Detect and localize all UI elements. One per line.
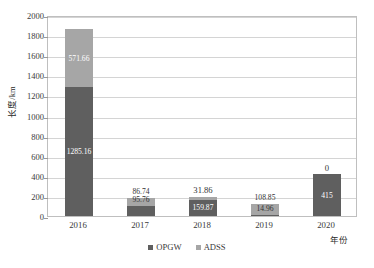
bar-value-label: 1285.16 <box>65 147 93 156</box>
legend-swatch-icon <box>148 245 153 250</box>
bar-value-label-outside: 0 <box>303 164 351 173</box>
y-tick-label: 800 <box>13 133 44 141</box>
bar-group: 108.8514.96 <box>251 17 279 216</box>
chart-legend: OPGWADSS <box>0 243 374 252</box>
bar-group: 0415 <box>313 17 341 216</box>
legend-swatch-icon <box>196 245 201 250</box>
bar-stack: 86.7495.76 <box>127 198 155 216</box>
bar-value-label: 159.87 <box>189 203 217 212</box>
y-axis-tick-labels: 0200400600800100012001400160018002000 <box>13 16 44 217</box>
bars-layer: 571.661285.1686.7495.7631.86159.87108.85… <box>48 17 356 216</box>
bar-segment-adss: 571.66 <box>65 29 93 86</box>
bar-value-label: 95.76 <box>127 195 155 204</box>
y-tickmark <box>44 218 48 219</box>
legend-item[interactable]: ADSS <box>196 243 226 252</box>
bar-segment-opgw: 1285.16 <box>65 87 93 216</box>
x-tick-label: 2018 <box>171 220 233 230</box>
plot-area: 571.661285.1686.7495.7631.86159.87108.85… <box>47 16 357 217</box>
legend-item[interactable]: OPGW <box>148 243 181 252</box>
bar-stack: 415 <box>313 174 341 216</box>
bar-stack: 159.87 <box>189 197 217 216</box>
bar-segment-opgw: 415 <box>313 174 341 216</box>
bar-value-label: 86.74 <box>127 187 155 196</box>
y-tick-label: 1600 <box>13 52 44 60</box>
y-tick-label: 1000 <box>13 113 44 121</box>
bar-value-label: 415 <box>313 191 341 200</box>
y-tick-label: 2000 <box>13 12 44 20</box>
bar-segment-opgw: 159.87 <box>189 200 217 216</box>
bar-stack: 571.661285.16 <box>65 29 93 216</box>
bar-value-label: 108.85 <box>251 193 279 202</box>
y-tick-label: 600 <box>13 153 44 161</box>
y-tick-label: 400 <box>13 173 44 181</box>
stacked-bar-chart: 长度/km 0200400600800100012001400160018002… <box>0 0 374 268</box>
y-tick-label: 1200 <box>13 92 44 100</box>
bar-group: 571.661285.16 <box>65 17 93 216</box>
y-tick-label: 1400 <box>13 72 44 80</box>
y-tick-label: 200 <box>13 193 44 201</box>
x-tick-label: 2019 <box>233 220 295 230</box>
x-tick-label: 2020 <box>295 220 357 230</box>
legend-label: OPGW <box>156 243 181 252</box>
bar-value-label: 14.96 <box>251 204 279 213</box>
bar-value-label: 571.66 <box>65 54 93 63</box>
legend-label: ADSS <box>204 243 226 252</box>
bar-stack: 108.8514.96 <box>251 204 279 216</box>
y-tick-label: 0 <box>13 213 44 221</box>
x-axis-tick-labels: 20162017201820192020 <box>47 220 357 234</box>
x-tick-label: 2017 <box>109 220 171 230</box>
y-tick-label: 1800 <box>13 32 44 40</box>
bar-group: 86.7495.76 <box>127 17 155 216</box>
bar-value-label-outside: 31.86 <box>179 186 227 195</box>
x-tick-label: 2016 <box>47 220 109 230</box>
bar-segment-opgw: 95.76 <box>127 206 155 216</box>
bar-segment-opgw: 14.96 <box>251 215 279 217</box>
bar-group: 31.86159.87 <box>189 17 217 216</box>
